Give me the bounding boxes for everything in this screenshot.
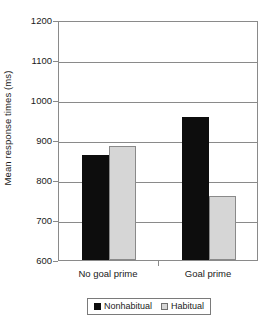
y-axis-tick-label: 1200 [8, 16, 52, 26]
black-square-icon [94, 303, 101, 310]
gridline [59, 142, 257, 143]
gridline [59, 62, 257, 63]
y-axis-tick-mark [53, 261, 58, 262]
y-axis-tick-label: 800 [8, 176, 52, 186]
bar-nonhabitual-no-goal-prime [82, 155, 109, 260]
gray-square-icon [161, 303, 168, 310]
y-axis-title: Mean response times (ms) [2, 8, 20, 248]
y-axis-tick-label: 1100 [8, 56, 52, 66]
y-axis-tick-label: 900 [8, 136, 52, 146]
legend-label-habitual: Habitual [171, 302, 204, 311]
y-axis-tick-label: 700 [8, 216, 52, 226]
legend-item-nonhabitual: Nonhabitual [94, 302, 152, 311]
bar-habitual-goal-prime [209, 196, 236, 260]
x-axis-tick-mark [158, 261, 159, 266]
x-axis-category-label: Goal prime [148, 268, 268, 279]
chart-legend: Nonhabitual Habitual [87, 298, 211, 315]
bar-nonhabitual-goal-prime [182, 117, 209, 260]
plot-area [58, 21, 258, 261]
bar-habitual-no-goal-prime [109, 146, 136, 260]
y-axis-tick-label: 600 [8, 256, 52, 266]
y-axis-tick-label: 1000 [8, 96, 52, 106]
legend-item-habitual: Habitual [161, 302, 204, 311]
legend-label-nonhabitual: Nonhabitual [104, 302, 152, 311]
bar-chart: Mean response times (ms) 600700800900100… [0, 0, 272, 327]
gridline [59, 102, 257, 103]
